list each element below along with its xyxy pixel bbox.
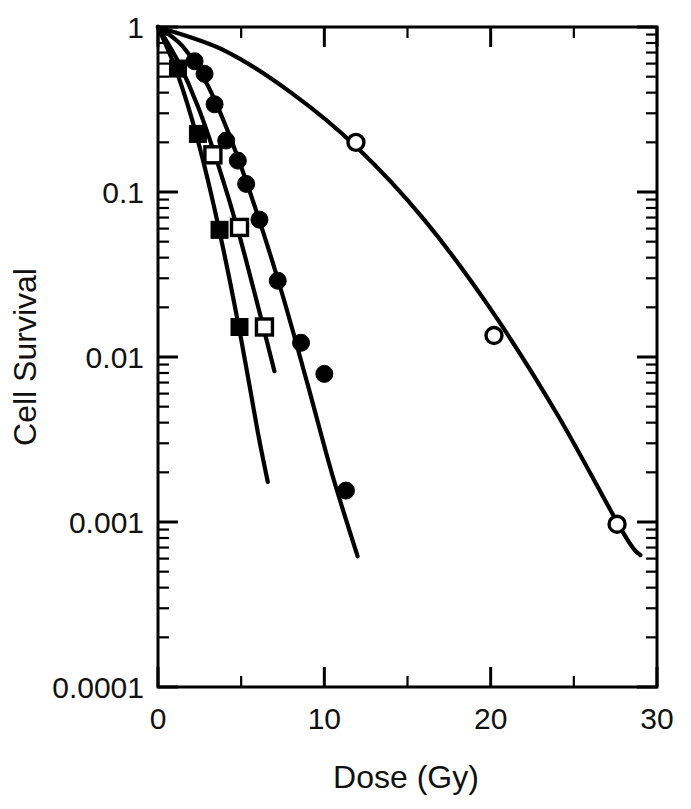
x-tick-label-20: 20 [474,702,507,735]
marker-filled-circle [337,482,354,499]
marker-open-square [256,319,272,335]
chart-svg: 1 0.1 0.01 0.001 0.0001 0 10 20 30 Dose … [0,0,691,809]
y-axis-tick-labels: 1 0.1 0.01 0.001 0.0001 [52,11,144,704]
x-tick-label-30: 30 [640,702,673,735]
x-axis-major-ticks [158,27,657,687]
y-tick-label-0p01: 0.01 [86,341,144,374]
x-tick-label-0: 0 [150,702,167,735]
marker-filled-circle [229,152,246,169]
marker-filled-square [231,318,248,335]
marker-filled-circle [316,365,333,382]
marker-filled-circle [269,272,286,289]
fit-curves [158,27,640,556]
y-tick-label-0p1: 0.1 [102,176,144,209]
marker-filled-square [211,221,228,238]
x-tick-label-10: 10 [308,702,341,735]
marker-filled-square [169,60,186,77]
x-axis-title: Dose (Gy) [333,759,479,795]
marker-filled-circle [251,211,268,228]
marker-open-circle [486,327,502,343]
x-axis-tick-labels: 0 10 20 30 [150,702,674,735]
marker-filled-circle [206,96,223,113]
marker-filled-circle [196,65,213,82]
marker-filled-square [189,125,206,142]
y-tick-label-1: 1 [127,11,144,44]
y-axis-title: Cell Survival [7,268,43,446]
cell-survival-chart: 1 0.1 0.01 0.001 0.0001 0 10 20 30 Dose … [0,0,691,809]
y-tick-label-0p001: 0.001 [69,506,144,539]
data-point-markers [169,53,625,532]
marker-open-circle [348,134,364,150]
marker-filled-circle [293,334,310,351]
plot-frame [158,27,657,687]
marker-filled-circle [238,175,255,192]
marker-open-square [232,219,248,235]
marker-open-circle [609,516,625,532]
marker-open-square [205,147,221,163]
y-tick-label-0p0001: 0.0001 [52,671,144,704]
y-axis-major-ticks [158,27,657,687]
